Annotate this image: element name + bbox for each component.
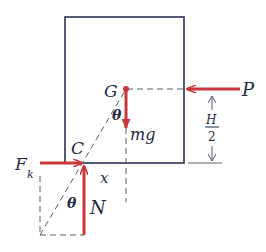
- label-g: G: [104, 81, 118, 101]
- label-theta-bottom: θ: [67, 195, 77, 211]
- label-f: F: [14, 154, 28, 174]
- label-c: C: [71, 138, 84, 158]
- free-body-diagram: G θ mg P H 2 C F k x θ N: [0, 0, 266, 252]
- label-theta-top: θ: [112, 107, 122, 123]
- label-k-subscript: k: [27, 168, 34, 181]
- label-2: 2: [208, 130, 216, 144]
- label-h: H: [205, 113, 217, 127]
- label-n: N: [89, 197, 107, 218]
- label-mg: mg: [130, 125, 155, 144]
- label-p: P: [241, 79, 255, 100]
- center-of-mass-dot: [123, 86, 129, 92]
- label-x: x: [100, 169, 109, 187]
